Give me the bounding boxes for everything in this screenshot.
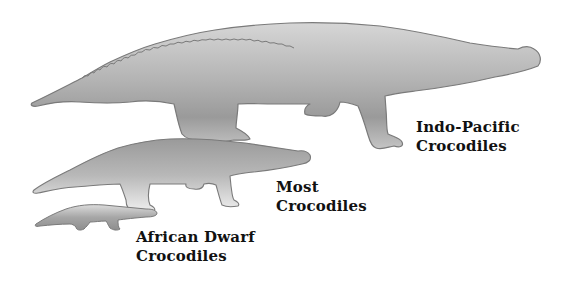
african-dwarf-crocodile-silhouette — [35, 205, 157, 230]
label-indo-pacific-crocodiles: Indo-Pacific Crocodiles — [416, 118, 520, 156]
label-indo-pacific-line1: Indo-Pacific — [416, 118, 520, 137]
most-crocodiles-silhouette — [33, 139, 310, 212]
label-african-dwarf-line2: Crocodiles — [136, 247, 255, 266]
label-indo-pacific-line2: Crocodiles — [416, 137, 520, 156]
label-most-line1: Most — [276, 178, 367, 197]
label-african-dwarf-crocodiles: African Dwarf Crocodiles — [136, 228, 255, 266]
label-most-line2: Crocodiles — [276, 197, 367, 216]
label-african-dwarf-line1: African Dwarf — [136, 228, 255, 247]
label-most-crocodiles: Most Crocodiles — [276, 178, 367, 216]
